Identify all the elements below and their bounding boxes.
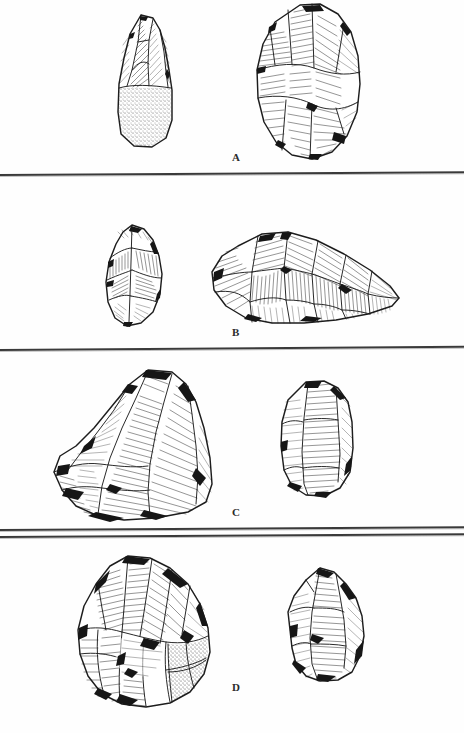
panel-label-a: A — [232, 151, 240, 163]
artifact-d-left — [68, 552, 218, 710]
panel-label-c: C — [232, 506, 240, 518]
rule-after-c — [0, 526, 464, 531]
artifact-b-right — [196, 228, 406, 334]
artifact-c-right — [272, 378, 360, 502]
panel-label-b: B — [232, 326, 240, 338]
rule-after-a — [0, 171, 464, 176]
rule-after-b — [0, 346, 464, 351]
rule-before-d — [0, 533, 464, 538]
artifact-d-right — [278, 564, 372, 686]
artifact-a-right — [248, 2, 366, 164]
artifact-a-left — [108, 12, 182, 152]
figure-plate: A — [0, 0, 464, 733]
artifact-b-left — [98, 222, 170, 330]
panel-label-d: D — [232, 681, 240, 693]
artifact-c-left — [40, 366, 218, 524]
